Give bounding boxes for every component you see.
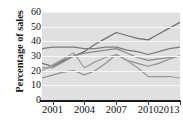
x-tick-mark bbox=[53, 100, 54, 105]
x-axis-line bbox=[40, 100, 181, 102]
y-tick-label: 20 bbox=[17, 66, 41, 76]
gridline bbox=[42, 41, 180, 42]
gridline bbox=[42, 27, 180, 28]
x-axis-tick-labels: 20012004200720102013 bbox=[0, 104, 183, 122]
y-tick-label: 40 bbox=[17, 36, 41, 46]
x-tick-label: 2007 bbox=[106, 104, 127, 115]
series-line-series-2 bbox=[42, 47, 180, 54]
x-tick-mark bbox=[116, 100, 117, 105]
y-tick-label: 60 bbox=[17, 7, 41, 17]
line-chart: Percentage of sales 0102030405060 200120… bbox=[0, 0, 183, 123]
x-tick-mark bbox=[180, 100, 181, 105]
gridline bbox=[42, 71, 180, 72]
y-tick-label: 10 bbox=[17, 80, 41, 90]
gridline bbox=[42, 56, 180, 57]
x-tick-mark bbox=[84, 100, 85, 105]
plot-area bbox=[42, 12, 180, 100]
gridline bbox=[42, 85, 180, 86]
x-tick-mark bbox=[148, 100, 149, 105]
x-tick-label: 2013 bbox=[159, 104, 180, 115]
x-tick-label: 2004 bbox=[74, 104, 95, 115]
x-tick-label: 2010 bbox=[138, 104, 159, 115]
gridline bbox=[42, 12, 180, 13]
x-tick-label: 2001 bbox=[42, 104, 63, 115]
y-tick-label: 30 bbox=[17, 51, 41, 61]
series-line-series-4 bbox=[42, 55, 180, 78]
y-tick-label: 50 bbox=[17, 22, 41, 32]
